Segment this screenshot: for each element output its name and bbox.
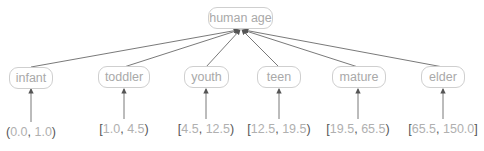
range-toddler: [1.0, 4.5) bbox=[99, 122, 148, 136]
node-infant: infant bbox=[9, 67, 53, 89]
range-low: 12.5 bbox=[251, 122, 275, 136]
range-low: 65.5 bbox=[412, 122, 436, 136]
node-label: mature bbox=[340, 70, 379, 84]
node-elder: elder bbox=[421, 66, 465, 88]
range-low: 1.0 bbox=[103, 122, 120, 136]
range-teen: [12.5, 19.5) bbox=[247, 122, 310, 136]
node-label: toddler bbox=[105, 70, 143, 84]
range-close: ) bbox=[306, 122, 310, 136]
range-low: 4.5 bbox=[181, 122, 198, 136]
node-toddler: toddler bbox=[98, 66, 150, 88]
node-label: elder bbox=[429, 70, 457, 84]
range-close: ) bbox=[52, 125, 56, 139]
node-label: teen bbox=[267, 70, 291, 84]
edge-infant-to-root bbox=[31, 30, 238, 67]
range-sep: , bbox=[199, 122, 206, 136]
range-close: ] bbox=[474, 122, 477, 136]
edge-toddler-to-root bbox=[124, 30, 239, 67]
range-infant: (0.0, 1.0) bbox=[6, 125, 56, 139]
range-high: 1.0 bbox=[34, 125, 51, 139]
range-high: 65.5 bbox=[361, 122, 385, 136]
node-mature: mature bbox=[332, 66, 386, 88]
range-low: 19.5 bbox=[330, 122, 354, 136]
range-sep: , bbox=[275, 122, 282, 136]
range-close: ) bbox=[230, 122, 234, 136]
range-sep: , bbox=[354, 122, 361, 136]
range-close: ) bbox=[385, 122, 389, 136]
range-high: 12.5 bbox=[206, 122, 230, 136]
range-low: 0.0 bbox=[10, 125, 27, 139]
range-youth: [4.5, 12.5) bbox=[178, 122, 234, 136]
node-label: infant bbox=[16, 71, 47, 85]
range-sep: , bbox=[28, 125, 35, 139]
range-mature: [19.5, 65.5) bbox=[326, 122, 389, 136]
range-sep: , bbox=[120, 122, 127, 136]
range-sep: , bbox=[436, 122, 443, 136]
range-elder: [65.5, 150.0] bbox=[408, 122, 478, 136]
node-youth: youth bbox=[184, 66, 229, 88]
range-high: 4.5 bbox=[127, 122, 144, 136]
range-high: 19.5 bbox=[282, 122, 306, 136]
range-close: ) bbox=[145, 122, 149, 136]
root-node-human-age: human age bbox=[208, 7, 273, 29]
range-high: 150.0 bbox=[443, 122, 474, 136]
root-node-label: human age bbox=[209, 11, 272, 25]
node-teen: teen bbox=[257, 66, 301, 88]
node-label: youth bbox=[191, 70, 222, 84]
